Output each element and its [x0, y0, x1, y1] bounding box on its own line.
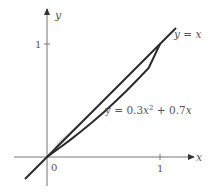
- line-equation-label: y = x: [173, 28, 201, 40]
- x-axis-label: x: [196, 151, 203, 164]
- parabola-eq-var2: x: [186, 104, 192, 116]
- parabola-eq-lhs: y = 0.3: [104, 104, 143, 116]
- region-between-curves-diagram: y x 0 1 1 y = x y = 0.3x2 + 0.7x: [0, 0, 209, 194]
- parabola-equation-label: y = 0.3x2 + 0.7x: [104, 104, 192, 116]
- y-tick-1-label: 1: [35, 39, 41, 50]
- line-eq-lhs: y =: [173, 28, 195, 40]
- parabola-eq-tail: + 0.7: [154, 104, 186, 116]
- x-tick-1-label: 1: [157, 163, 163, 174]
- y-axis-label: y: [54, 9, 62, 22]
- line-eq-rhs: x: [195, 28, 201, 40]
- origin-label: 0: [51, 162, 57, 173]
